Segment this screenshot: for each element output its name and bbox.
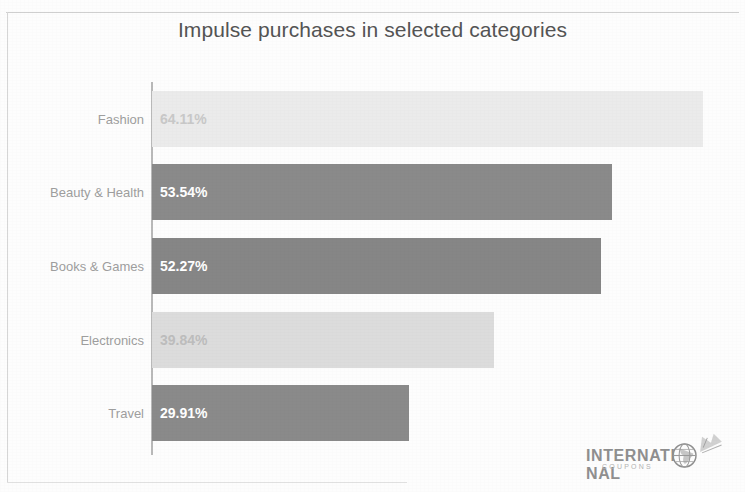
logo-word-head: INTERNATI — [586, 447, 676, 464]
category-axis-label: Travel — [4, 406, 144, 421]
bar-row: 29.91%Travel — [152, 385, 732, 441]
bar-value-label: 52.27% — [160, 258, 207, 274]
bar-row: 53.54%Beauty & Health — [152, 164, 732, 220]
frame-border-bottom — [7, 482, 407, 483]
category-axis-label: Beauty & Health — [4, 185, 144, 200]
logo-subtitle: COUPONS — [602, 463, 653, 470]
bar-value-label: 29.91% — [160, 405, 207, 421]
bar-value-label: 39.84% — [160, 332, 207, 348]
bar-row: 52.27%Books & Games — [152, 238, 732, 294]
bar — [152, 238, 601, 294]
watermark-logo: INTERNATINAL COUPONS — [586, 437, 736, 483]
bar — [152, 91, 703, 147]
plot-area: 64.11%Fashion53.54%Beauty & Health52.27%… — [152, 82, 732, 450]
bar-value-label: 64.11% — [160, 111, 207, 127]
frame-border-top — [6, 12, 739, 13]
category-axis-label: Books & Games — [4, 259, 144, 274]
bar — [152, 164, 612, 220]
chart-figure: Impulse purchases in selected categories… — [0, 0, 745, 492]
bar-row: 39.84%Electronics — [152, 312, 732, 368]
category-axis-label: Electronics — [4, 332, 144, 347]
bar-value-label: 53.54% — [160, 184, 207, 200]
bar-row: 64.11%Fashion — [152, 91, 732, 147]
chart-title: Impulse purchases in selected categories — [0, 18, 745, 42]
category-axis-label: Fashion — [4, 111, 144, 126]
